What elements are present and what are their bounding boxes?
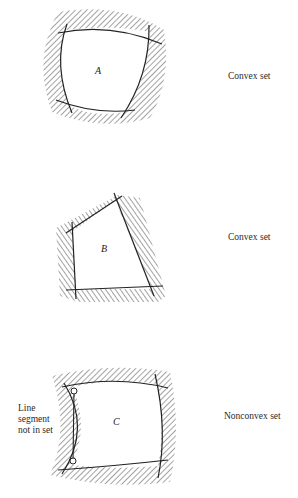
segment-annotation: Line segment not in set [18,403,53,436]
panel-a-caption: Convex set [228,71,270,81]
panel-a-label: A [95,65,101,76]
panel-a-shape [43,9,166,123]
annotation-line-3: not in set [18,425,53,436]
panel-c-label: C [113,416,120,427]
panel-b-caption: Convex set [228,232,270,242]
annotation-line-1: Line [18,403,53,414]
panel-c-caption: Nonconvex set [224,411,281,421]
annotation-line-2: segment [18,414,53,425]
panel-b-shape [56,193,166,302]
segment-endpoint-bottom [70,458,76,464]
segment-endpoint-top [71,388,77,394]
panel-b-label: B [101,243,107,254]
